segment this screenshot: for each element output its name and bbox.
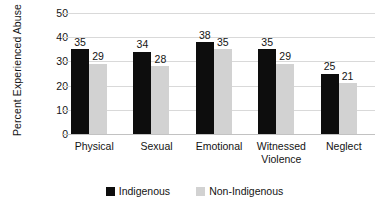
y-axis-tick-label: 10 bbox=[28, 105, 68, 116]
y-axis-tick-label: 50 bbox=[28, 8, 68, 19]
x-axis-category-label: WitnessedViolence bbox=[250, 140, 312, 165]
x-axis-category-label-line: Neglect bbox=[313, 140, 375, 153]
bar bbox=[276, 64, 294, 134]
x-axis-category-label-line: Sexual bbox=[125, 140, 187, 153]
bar-value-label: 34 bbox=[127, 39, 157, 50]
plot-area: 35293428383535292521 bbox=[63, 13, 375, 134]
bar bbox=[214, 49, 232, 134]
bar bbox=[258, 49, 276, 134]
y-axis-title: Percent Experienced Abuse bbox=[11, 0, 23, 145]
bar-group: 2521 bbox=[313, 13, 375, 134]
x-axis-category-label: Emotional bbox=[188, 140, 250, 153]
bar-value-label: 28 bbox=[145, 54, 175, 65]
x-axis-category-labels: PhysicalSexualEmotionalWitnessedViolence… bbox=[63, 140, 375, 178]
bars-layer: 35293428383535292521 bbox=[63, 13, 375, 134]
bar-group: 3529 bbox=[63, 13, 125, 134]
x-axis-category-label: Neglect bbox=[313, 140, 375, 153]
y-axis-tick-label: 40 bbox=[28, 32, 68, 43]
legend-label: Indigenous bbox=[119, 186, 170, 197]
bar-value-label: 35 bbox=[252, 37, 282, 48]
bar bbox=[196, 42, 214, 134]
legend-item-indigenous: Indigenous bbox=[106, 186, 170, 197]
bar-group: 3835 bbox=[188, 13, 250, 134]
bar bbox=[89, 64, 107, 134]
bar bbox=[71, 49, 89, 134]
y-axis-tick-label: 20 bbox=[28, 81, 68, 92]
bar-value-label: 29 bbox=[83, 51, 113, 62]
legend-swatch-icon bbox=[106, 187, 115, 196]
x-axis-category-label-line: Witnessed bbox=[250, 140, 312, 153]
bar bbox=[321, 74, 339, 135]
bar-value-label: 21 bbox=[333, 71, 363, 82]
chart-legend: IndigenousNon-Indigenous bbox=[0, 186, 389, 197]
legend-swatch-icon bbox=[196, 187, 205, 196]
bar-value-label: 35 bbox=[208, 37, 238, 48]
bar-chart: Percent Experienced Abuse 50403020100 35… bbox=[0, 0, 389, 212]
y-axis-tick-label: 30 bbox=[28, 56, 68, 67]
bar-group: 3428 bbox=[125, 13, 187, 134]
bar bbox=[151, 66, 169, 134]
bar-value-label: 35 bbox=[65, 37, 95, 48]
x-axis-category-label: Physical bbox=[63, 140, 125, 153]
bar-group: 3529 bbox=[250, 13, 312, 134]
x-axis-category-label-line: Emotional bbox=[188, 140, 250, 153]
y-axis-tick-label: 0 bbox=[28, 129, 68, 140]
bar-value-label: 29 bbox=[270, 51, 300, 62]
bar bbox=[339, 83, 357, 134]
gridline bbox=[63, 134, 375, 135]
x-axis-category-label: Sexual bbox=[125, 140, 187, 153]
x-axis-category-label-line: Violence bbox=[250, 153, 312, 166]
legend-label: Non-Indigenous bbox=[209, 186, 283, 197]
legend-item-non-indigenous: Non-Indigenous bbox=[196, 186, 283, 197]
x-axis-category-label-line: Physical bbox=[63, 140, 125, 153]
